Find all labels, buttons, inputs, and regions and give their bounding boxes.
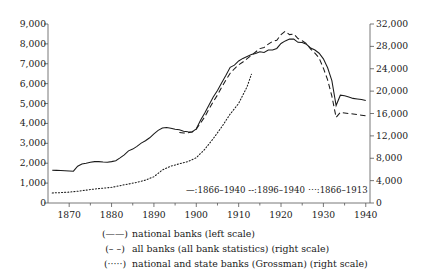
x-axis-tick-label: 1880 [92,210,132,219]
inline-legend-item: —:1866–1940 [186,185,248,195]
y-axis-left-tick-label: 0 [40,198,46,207]
y-axis-left-tick-label: 6,000 [20,79,46,88]
y-axis-left-tick-label: 3,000 [20,138,46,147]
y-axis-left-tick-label: 7,000 [20,59,46,68]
series-solid [52,39,366,171]
inline-legend-item: --:1896–1940 [248,185,307,195]
x-axis-tick-label: 1900 [176,210,216,219]
y-axis-right-tick-label: 8,000 [376,153,402,162]
legend-marker-dotted: (·····) [98,256,132,271]
legend-item: (·····)national and state banks (Grossma… [98,256,368,271]
y-axis-right-tick-label: 4,000 [376,176,402,185]
legend-label: national banks (left scale) [132,228,255,239]
y-axis-left-tick-label: 2,000 [20,158,46,167]
y-axis-right-tick-label: 16,000 [376,109,408,118]
y-axis-right-tick-label: 12,000 [376,131,408,140]
inline-range-legend: —:1866–1940 --:1896–1940 ⋯:1866–1913 [186,186,368,195]
series-dotted [52,74,251,193]
x-axis-tick-label: 1940 [346,210,386,219]
y-axis-left-tick-label: 4,000 [20,118,46,127]
x-axis-tick-label: 1870 [49,210,89,219]
legend-item: (– –)all banks (all bank statistics) (ri… [98,241,368,256]
y-axis-left-tick-label: 8,000 [20,39,46,48]
legend-marker-solid: (——) [98,226,132,241]
legend-label: all banks (all bank statistics) (right s… [132,243,329,254]
y-axis-right-tick-label: 20,000 [376,86,408,95]
y-axis-left-tick-label: 1,000 [20,178,46,187]
legend-marker-dashed: (– –) [98,241,132,256]
series-dashed [179,31,365,133]
y-axis-right-tick-label: 0 [376,198,382,207]
legend-item: (——)national banks (left scale) [98,226,368,241]
x-axis-tick-label: 1910 [219,210,259,219]
legend-label: national and state banks (Grossman) (rig… [132,258,368,269]
y-axis-left-tick-label: 9,000 [20,19,46,28]
x-axis-tick-label: 1890 [134,210,174,219]
x-axis-tick-label: 1920 [261,210,301,219]
chart-legend: (——)national banks (left scale) (– –)all… [98,226,368,271]
inline-legend-item: ⋯:1866–1913 [308,185,368,195]
y-axis-right-tick-label: 32,000 [376,19,408,28]
x-axis-tick-label: 1930 [303,210,343,219]
y-axis-right-tick-label: 28,000 [376,41,408,50]
y-axis-left-tick-label: 5,000 [20,99,46,108]
bank-counts-line-chart: 01,0002,0003,0004,0005,0006,0007,0008,00… [0,0,430,276]
y-axis-right-tick-label: 24,000 [376,64,408,73]
